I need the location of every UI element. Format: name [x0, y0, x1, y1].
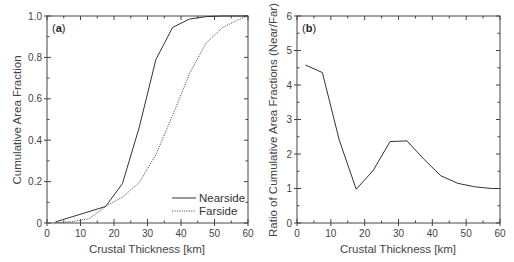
x-axis-title: Crustal Thickness [km]: [89, 243, 205, 255]
x-tick-label: 10: [325, 228, 337, 239]
x-tick-label: 40: [175, 228, 187, 239]
panel-label: (a): [52, 22, 65, 34]
x-tick-label: 60: [494, 228, 506, 239]
y-tick-label: 0.6: [28, 93, 42, 104]
y-tick-label: 0.4: [28, 135, 42, 146]
y-tick-label: 0: [36, 218, 42, 229]
x-tick-label: 30: [142, 228, 154, 239]
x-tick-label: 30: [393, 228, 405, 239]
y-tick-label: 6: [286, 11, 292, 22]
legend: Nearside Farside: [172, 192, 245, 217]
y-tick-label: 5: [286, 45, 292, 56]
y-tick-label: 1: [286, 183, 292, 194]
y-tick-label: 0.8: [28, 52, 42, 63]
x-tick-labels: 0102030405060: [44, 228, 254, 239]
x-axis-title: Crustal Thickness [km]: [340, 243, 456, 255]
y-axis-title: Ratio of Cumulative Area Fractions (Near…: [267, 3, 279, 237]
x-tick-label: 0: [44, 228, 50, 239]
y-tick-labels: 00.20.40.60.81.0: [28, 11, 42, 229]
y-axis-title: Cumulative Area Fraction: [11, 55, 23, 184]
data-series: [305, 65, 500, 189]
axis-ticks: [294, 16, 500, 226]
panel-label: (b): [302, 22, 316, 34]
y-tick-label: 0: [286, 218, 292, 229]
figure-canvas: 0102030405060 00.20.40.60.81.0 (a) Crust…: [0, 0, 514, 262]
y-tick-label: 4: [286, 80, 292, 91]
x-tick-label: 60: [242, 228, 254, 239]
chart-panel-b: 0102030405060 0123456 (b) Crustal Thickn…: [267, 3, 506, 255]
y-tick-label: 3: [286, 114, 292, 125]
legend-label-farside: Farside: [199, 205, 237, 217]
x-tick-labels: 0102030405060: [294, 228, 506, 239]
legend-label-nearside: Nearside: [199, 192, 245, 204]
x-tick-label: 20: [108, 228, 120, 239]
y-tick-label: 0.2: [28, 176, 42, 187]
x-tick-label: 50: [461, 228, 473, 239]
y-tick-label: 1.0: [28, 11, 42, 22]
chart-panel-a: 0102030405060 00.20.40.60.81.0 (a) Crust…: [11, 11, 254, 256]
y-tick-labels: 0123456: [286, 11, 292, 229]
x-tick-label: 50: [209, 228, 221, 239]
x-tick-label: 40: [427, 228, 439, 239]
y-tick-label: 2: [286, 149, 292, 160]
x-tick-label: 0: [294, 228, 300, 239]
axes-frame: [297, 16, 500, 223]
x-tick-label: 10: [75, 228, 87, 239]
x-tick-label: 20: [359, 228, 371, 239]
series-near-far-ratio-line: [305, 65, 500, 189]
